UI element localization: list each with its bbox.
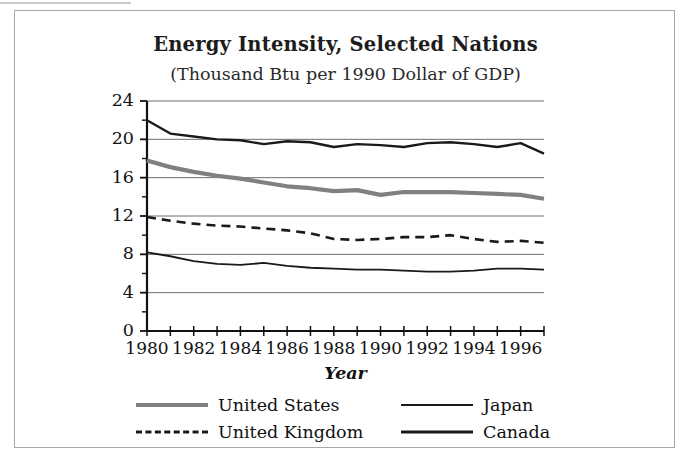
y-tick-label-12: 12 [94, 207, 134, 225]
figure-page: Energy Intensity, Selected Nations (Thou… [0, 0, 689, 461]
legend-swatch-united-kingdom-icon [136, 425, 208, 439]
series-line-united-states [147, 160, 544, 198]
page-top-rule [0, 2, 131, 4]
legend-entry-canada[interactable]: Canada [401, 419, 550, 444]
plot-area: 04812162024 1980198219841986198819901992… [15, 11, 676, 449]
y-tick-label-8: 8 [94, 245, 134, 263]
series-line-japan [147, 252, 544, 271]
y-tick-label-4: 4 [94, 284, 134, 302]
x-tick-label-1996: 1996 [494, 340, 548, 357]
legend-entry-united-states[interactable]: United States [136, 392, 340, 417]
y-tick-label-20: 20 [94, 130, 134, 148]
legend-swatch-japan-icon [401, 398, 473, 412]
y-tick-label-0: 0 [94, 322, 134, 340]
series-line-canada [147, 120, 544, 154]
chart-legend: United States Japan United Kingdom Canad… [136, 392, 556, 444]
legend-label-japan: Japan [483, 395, 533, 415]
figure-frame: Energy Intensity, Selected Nations (Thou… [14, 10, 675, 448]
legend-entry-united-kingdom[interactable]: United Kingdom [136, 419, 363, 444]
y-tick-label-24: 24 [94, 92, 134, 110]
series-line-united-kingdom [147, 217, 544, 243]
legend-entry-japan[interactable]: Japan [401, 392, 533, 417]
legend-label-united-kingdom: United Kingdom [218, 422, 363, 442]
legend-label-united-states: United States [218, 395, 340, 415]
line-chart-svg [15, 11, 676, 449]
legend-swatch-canada-icon [401, 425, 473, 439]
x-axis-title: Year [15, 363, 676, 383]
y-tick-label-16: 16 [94, 169, 134, 187]
legend-label-canada: Canada [483, 422, 550, 442]
legend-swatch-united-states-icon [136, 398, 208, 412]
